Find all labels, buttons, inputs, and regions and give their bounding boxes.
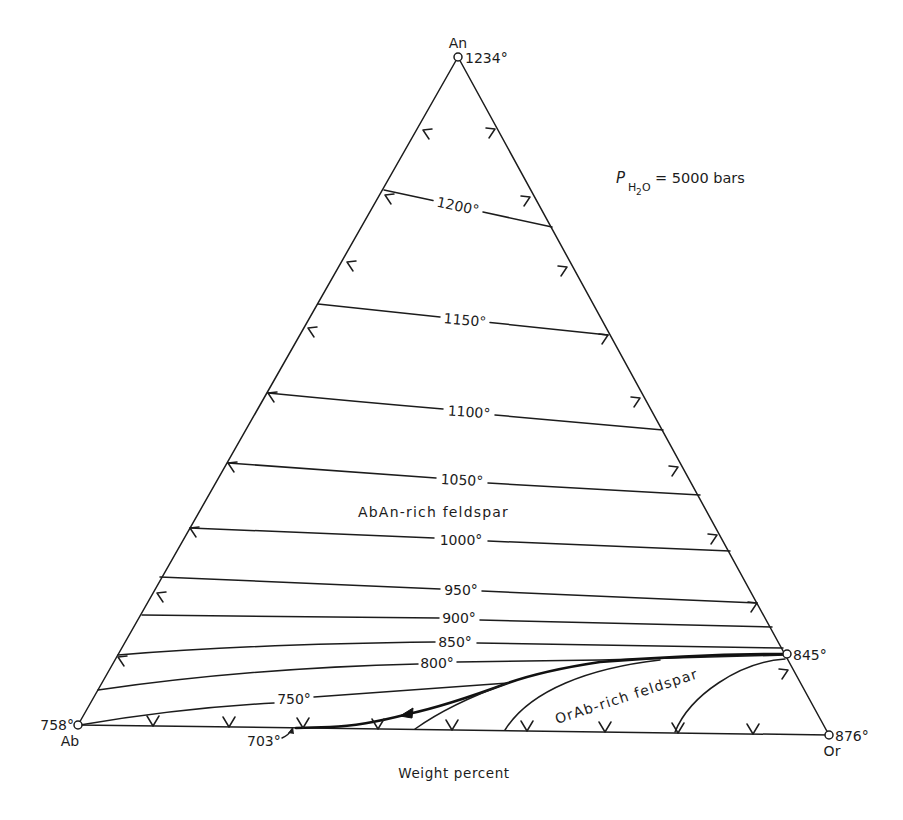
pressure-annotation: P H 2 O = 5000 bars [616,169,745,197]
minimum-703-label: 703° [247,733,281,749]
pressure-symbol: P [616,169,626,187]
isotherm-label: 1150° [443,310,487,330]
arrow-icon [347,261,356,271]
arrow-icon [118,656,127,666]
arrow-icon [157,592,166,602]
boundary-curve-1 [415,683,508,729]
isotherm-1050: 1050° [228,463,700,495]
arrow-icon [521,196,530,206]
vertex-an-temp: 1234° [465,50,508,66]
arrow-icon [708,534,717,544]
arrow-icon [631,397,640,407]
isotherm-1200: 1200° [384,190,552,227]
isotherm-label: 1050° [440,471,483,489]
isotherm-label: 1100° [447,403,491,422]
isotherm-label: 850° [438,634,472,650]
left-edge-arrows [118,129,432,666]
vertex-an-marker [454,53,462,61]
arrow-icon [779,669,788,679]
isotherm-label: 750° [277,691,311,707]
arrow-icon [669,466,678,476]
minimum-845-label: 845° [793,647,827,663]
isotherm-label: 1000° [440,532,483,548]
pressure-subscript-2: 2 [636,187,642,197]
ternary-diagram: 1200° 1150° 1100° 1050° 1000° [0,0,903,820]
pressure-value: = 5000 bars [655,170,745,186]
isotherm-label: 800° [420,655,454,671]
isotherm-950: 950° [160,577,757,603]
vertex-or-marker [825,731,833,739]
cotectic-arrow-icon [400,708,413,718]
isotherm-label: 1200° [435,194,480,219]
arrow-icon [747,724,759,734]
arrow-icon [308,327,317,337]
vertex-ab-marker [74,721,82,729]
isotherm-label: 950° [444,582,478,598]
vertex-or-temp: 876° [835,728,869,744]
arrow-icon [599,334,608,344]
isotherm-label: 900° [442,610,476,626]
field-label-aban: AbAn-rich feldspar [358,504,509,520]
arrow-icon [599,722,611,732]
isotherm-1100: 1100° [268,393,663,430]
vertex-ab-temp: 758° [40,717,74,733]
arrow-icon [486,128,495,138]
isotherm-1000: 1000° [190,528,730,551]
base-arrows [147,716,759,734]
vertex-or-label: Or [824,743,841,759]
isotherm-1150: 1150° [318,304,608,335]
field-label-orab: OrAb-rich feldspar [553,665,700,726]
arrow-icon [385,194,394,204]
arrow-icon [446,720,458,730]
isotherm-850: 850° [118,634,783,655]
arrow-icon [223,717,235,727]
axis-caption: Weight percent [398,765,509,781]
arrow-icon [423,129,432,139]
pressure-subscript-o: O [642,181,651,194]
vertex-ab-label: Ab [61,733,80,749]
minimum-845-marker [783,650,791,658]
vertex-an-label: An [449,35,467,51]
right-edge-arrows [486,128,788,679]
arrow-icon [521,721,533,731]
arrow-icon [558,266,567,276]
arrow-icon [147,716,159,726]
isotherm-900: 900° [142,610,772,627]
diagram-canvas: 1200° 1150° 1100° 1050° 1000° [0,0,903,820]
